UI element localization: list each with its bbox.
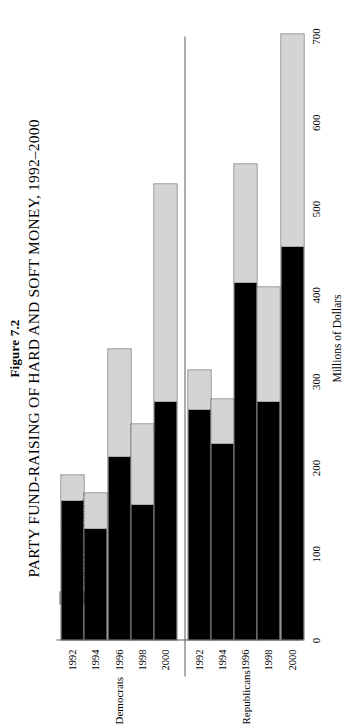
bar-democrats-1996: [107, 348, 131, 640]
figure-title-block: Figure 7.2 PARTY FUND-RAISING OF HARD AN…: [6, 0, 43, 696]
value-axis-caption: Millions of Dollars: [330, 36, 342, 640]
bar-republicans-1998: [256, 286, 280, 640]
value-axis-tick-label: 600: [309, 114, 321, 131]
value-axis-tick-label: 400: [309, 287, 321, 304]
value-axis-tick-label: 700: [309, 28, 321, 45]
bar-republicans-1994: [210, 398, 234, 640]
category-label-1992: 1992: [193, 649, 205, 670]
value-axis-tick-label: 0: [309, 637, 321, 643]
bar-segment-soft: [84, 493, 106, 528]
value-axis-tick-label: 500: [309, 200, 321, 217]
value-axis-tick-label: 300: [309, 373, 321, 390]
figure-title: PARTY FUND-RAISING OF HARD AND SOFT MONE…: [23, 0, 43, 696]
category-label-2000: 2000: [286, 649, 298, 670]
category-label-1998: 1998: [136, 649, 148, 670]
bar-segment-soft: [281, 34, 303, 246]
category-label-1998: 1998: [262, 649, 274, 670]
value-axis-tick-label: 200: [309, 459, 321, 476]
category-label-1996: 1996: [113, 649, 125, 670]
bar-republicans-1992: [187, 369, 211, 640]
value-axis-tick-label: 100: [309, 545, 321, 562]
group-separator-line: [184, 36, 185, 676]
bar-democrats-1992: [60, 474, 84, 640]
bar-republicans-2000: [280, 33, 304, 640]
bar-segment-hard: [84, 528, 106, 639]
category-label-2000: 2000: [159, 649, 171, 670]
bar-segment-soft: [108, 349, 130, 456]
bar-segment-soft: [188, 370, 210, 409]
group-label-democrats: Democrats: [112, 676, 124, 724]
category-label-1992: 1992: [66, 649, 78, 670]
bar-segment-soft: [131, 424, 153, 503]
bar-segment-soft: [257, 287, 279, 401]
figure-number: Figure 7.2: [6, 0, 22, 696]
bar-republicans-1996: [233, 163, 257, 640]
bar-segment-hard: [281, 246, 303, 639]
bar-segment-hard: [211, 443, 233, 639]
bar-segment-hard: [131, 504, 153, 639]
bar-segment-soft: [154, 184, 176, 401]
category-label-1994: 1994: [89, 649, 101, 670]
bar-segment-hard: [257, 401, 279, 639]
bar-segment-soft: [211, 399, 233, 443]
bar-segment-hard: [234, 282, 256, 639]
bar-segment-hard: [154, 401, 176, 639]
bar-democrats-2000: [153, 183, 177, 640]
bar-democrats-1994: [83, 492, 107, 640]
bar-democrats-1998: [130, 423, 154, 640]
bar-segment-hard: [188, 409, 210, 639]
group-label-republicans: Republicans: [239, 670, 251, 724]
bar-segment-hard: [108, 456, 130, 639]
category-label-1994: 1994: [216, 649, 228, 670]
bar-segment-hard: [61, 500, 83, 639]
category-label-1996: 1996: [239, 649, 251, 670]
plot-area: Millions of Dollars 01002003004005006007…: [56, 36, 297, 640]
bar-segment-soft: [61, 475, 83, 500]
bar-segment-soft: [234, 164, 256, 282]
